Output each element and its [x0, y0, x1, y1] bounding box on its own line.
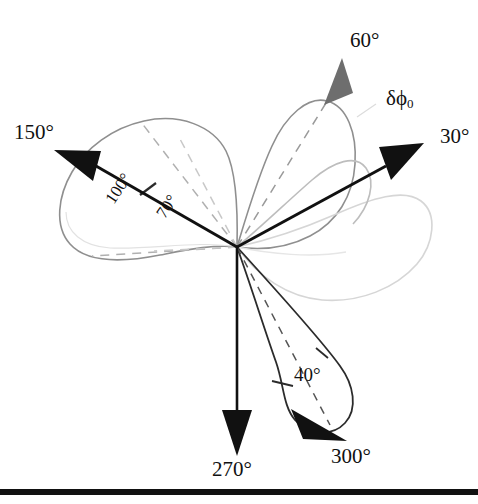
label-span-40-degrees: 40°: [294, 365, 321, 384]
label-270-degrees: 270°: [212, 459, 252, 480]
arrow-270-head: [222, 410, 252, 456]
arrow-300-head: [291, 409, 347, 441]
angular-lobe-diagram: [0, 0, 478, 504]
label-300-degrees: 300°: [331, 446, 371, 467]
delta-phi-leader: [357, 104, 376, 117]
arrow-30-head: [379, 143, 424, 180]
label-delta-phi-zero: δϕ0: [386, 88, 413, 110]
lobe-30-inner-contour: [237, 161, 371, 247]
label-60-degrees: 60°: [350, 30, 379, 51]
figure-canvas: 60° 30° 150° 270° 300° 100° 70° 40° δϕ0: [0, 0, 478, 504]
label-30-degrees: 30°: [440, 126, 469, 147]
delta-phi-subscript: 0: [407, 96, 414, 111]
lobe-60-dash-axis: [237, 103, 326, 247]
delta-phi-base: δϕ: [386, 86, 407, 110]
bottom-rule: [0, 489, 478, 495]
lobe-300-outline: [237, 247, 353, 432]
label-150-degrees: 150°: [14, 122, 54, 143]
arrow-60-head: [324, 58, 353, 105]
arrow-150-head: [54, 150, 101, 181]
lobe-150-inner-shade: [66, 212, 237, 248]
lobe-60-outline: [237, 100, 355, 248]
